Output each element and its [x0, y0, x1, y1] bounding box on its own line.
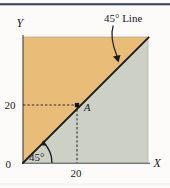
top-divider-rule-shadow [0, 5, 170, 6]
x-axis-label: X [153, 156, 162, 170]
y-tick-label-20: 20 [5, 99, 17, 111]
line-annotation-label: 45° Line [104, 12, 142, 24]
forty-five-degree-line-figure: Y X 0 20 20 45° Line 45° A [0, 0, 170, 188]
point-a-marker [75, 103, 79, 107]
point-a-label: A [83, 102, 91, 113]
angle-annotation-label: 45° [29, 151, 44, 163]
origin-label: 0 [6, 158, 12, 170]
x-tick-label-20: 20 [71, 167, 83, 179]
top-divider-rule [0, 3, 170, 5]
bottom-page-edge [0, 184, 170, 185]
